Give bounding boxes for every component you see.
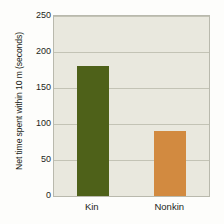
y-tick-label: 100 — [22, 118, 51, 128]
x-tick-label-nonkin: Nonkin — [131, 200, 209, 214]
bars-layer — [54, 16, 209, 196]
bar-chart-figure: Net time spent within 10 m (seconds) 050… — [0, 0, 224, 224]
y-tick-label: 200 — [22, 46, 51, 56]
y-tick-label: 50 — [22, 154, 51, 164]
x-axis-tick-labels: KinNonkin — [53, 200, 210, 216]
y-tick-label: 250 — [22, 10, 51, 20]
y-axis-tick-labels: 050100150200250 — [22, 10, 51, 202]
bar-kin — [77, 66, 109, 196]
y-tick-label: 0 — [22, 190, 51, 200]
y-tick-label: 150 — [22, 82, 51, 92]
plot-area — [53, 15, 210, 197]
x-tick-label-kin: Kin — [53, 200, 131, 214]
bar-nonkin — [154, 131, 186, 196]
